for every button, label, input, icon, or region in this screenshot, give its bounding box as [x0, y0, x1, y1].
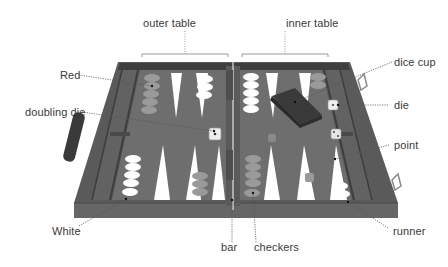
- left-handle: [62, 111, 86, 162]
- label-die: die: [394, 99, 409, 111]
- red-checkers: [192, 172, 208, 196]
- die-icon: [328, 100, 338, 110]
- white-checkers: [243, 73, 259, 113]
- label-checkers: checkers: [254, 241, 299, 253]
- white-checkers: [196, 75, 213, 99]
- label-inner-table: inner table: [286, 17, 338, 29]
- label-doubling-die: doubling die: [25, 106, 86, 118]
- backgammon-diagram: outer table inner table Red doubling die…: [0, 0, 448, 267]
- doubling-die-icon: [209, 128, 221, 140]
- bar: [226, 60, 240, 210]
- label-white: White: [52, 225, 81, 237]
- red-checkers: [244, 155, 261, 197]
- die-icon: [331, 129, 341, 139]
- label-bar: bar: [221, 241, 237, 253]
- label-runner: runner: [393, 225, 425, 237]
- label-outer-table: outer table: [143, 17, 196, 29]
- table-brackets: [142, 31, 328, 57]
- label-red: Red: [60, 69, 80, 81]
- label-point: point: [394, 139, 418, 151]
- label-dice-cup: dice cup: [394, 56, 436, 68]
